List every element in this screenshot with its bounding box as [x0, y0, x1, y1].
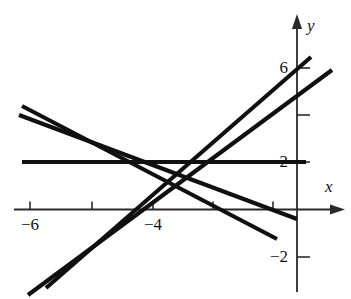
- negative-line: [19, 115, 297, 219]
- y-tick-label-2: 2: [258, 153, 288, 170]
- x-axis-label: x: [325, 178, 333, 195]
- y-axis-label: y: [307, 17, 315, 34]
- y-axis-arrow-icon: [292, 14, 302, 29]
- graph-figure: x y −6 −4 6 2 −2: [0, 0, 351, 299]
- coordinate-plane-svg: [0, 0, 351, 299]
- x-tick-label-minus6: −6: [10, 216, 50, 233]
- x-axis-arrow-icon: [330, 204, 345, 214]
- axes-group: [14, 14, 345, 292]
- y-tick-label-minus2: −2: [249, 248, 288, 265]
- x-tick-label-minus4: −4: [133, 216, 173, 233]
- y-tick-label-6: 6: [258, 59, 288, 76]
